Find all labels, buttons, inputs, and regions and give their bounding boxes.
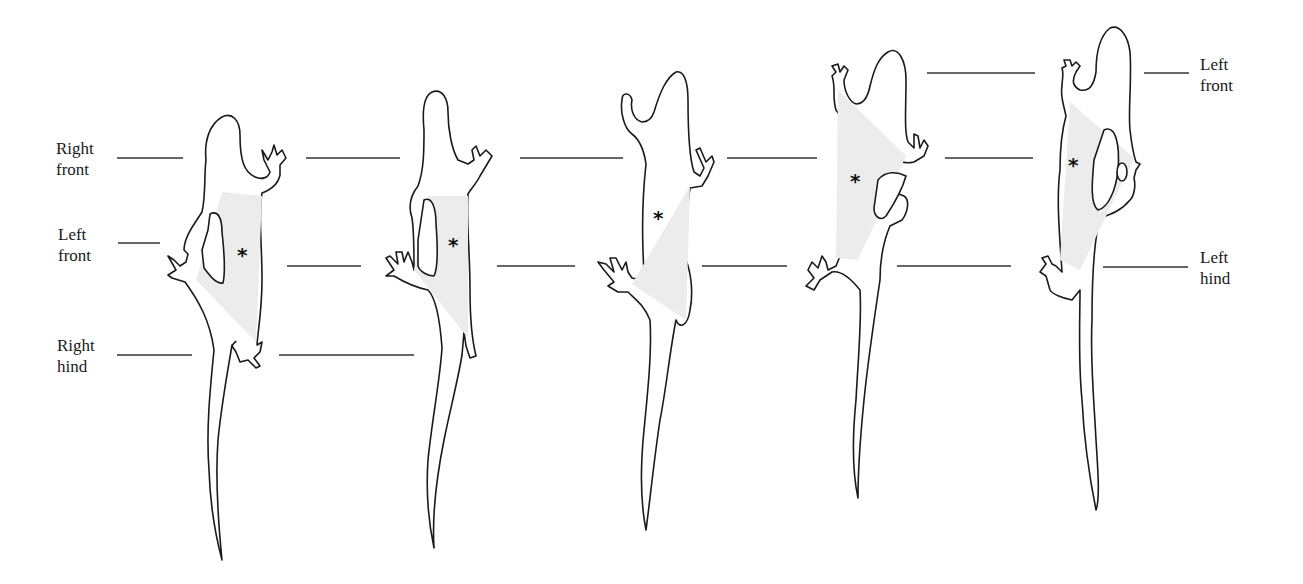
center-of-mass-marker: * bbox=[850, 169, 861, 193]
lizard-figure-3: * bbox=[598, 72, 714, 530]
lizard-figure-5: * bbox=[1040, 27, 1140, 510]
lizard-foot-outline bbox=[1117, 163, 1127, 181]
lizard-body-outline bbox=[386, 91, 492, 548]
lizard-figure-2: * bbox=[386, 91, 492, 548]
center-of-mass-marker: * bbox=[237, 243, 248, 267]
lizard-body-outline bbox=[168, 116, 286, 560]
lizard-figure-4: * bbox=[806, 51, 928, 498]
lizard-body-outline bbox=[598, 72, 714, 530]
center-of-mass-marker: * bbox=[448, 233, 459, 257]
lizard-body-outline bbox=[1040, 27, 1140, 510]
lizard-figure-1: * bbox=[168, 116, 286, 560]
center-of-mass-marker: * bbox=[1068, 153, 1079, 177]
gait-diagram: * * * * * bbox=[0, 0, 1303, 584]
lizard-body-outline bbox=[806, 51, 928, 498]
center-of-mass-marker: * bbox=[653, 206, 664, 230]
